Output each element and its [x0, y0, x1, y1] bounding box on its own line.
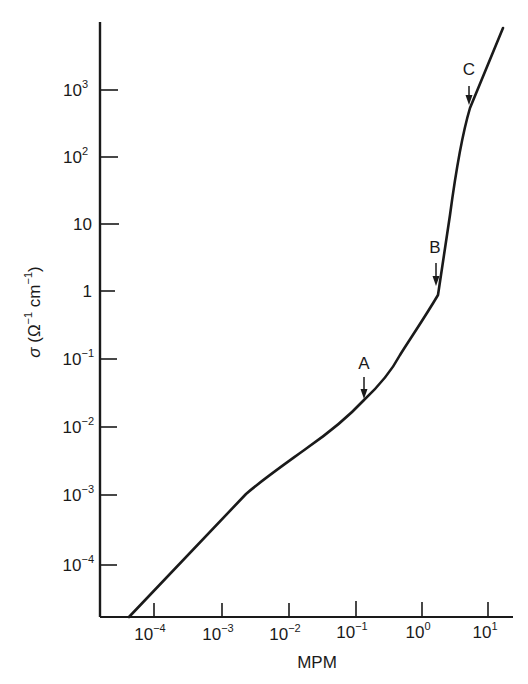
annotation-a-label: A: [358, 354, 370, 373]
x-axis-title: MPM: [297, 653, 337, 672]
chart: 103 102 10 1 10−1 10−2 10−3 10−4 10−4 10…: [0, 0, 528, 684]
y-ticks: [100, 90, 119, 565]
y-tick-label: 10−4: [63, 553, 94, 575]
y-tick-label: 10−1: [63, 347, 94, 369]
x-tick-label: 10−1: [336, 620, 367, 642]
x-tick-label: 101: [472, 620, 497, 642]
annotation-a: A: [358, 354, 370, 399]
y-tick-label: 1: [83, 282, 92, 301]
annotation-c-label: C: [463, 60, 475, 79]
annotation-b: B: [429, 238, 440, 286]
y-tick-label: 10−2: [63, 415, 94, 437]
annotation-b-label: B: [429, 238, 440, 257]
y-tick-label: 10: [73, 215, 92, 234]
y-tick-labels: 103 102 10 1 10−1 10−2 10−3 10−4: [63, 78, 94, 575]
x-tick-label: 10−3: [202, 622, 233, 644]
x-tick-labels: 10−4 10−3 10−2 10−1 100 101: [134, 620, 497, 644]
x-tick-label: 10−2: [269, 622, 300, 644]
y-tick-label: 103: [63, 78, 88, 100]
y-axis-title: σ (Ω−1 cm−1): [22, 266, 44, 358]
x-tick-label: 10−4: [134, 622, 165, 644]
conductivity-curve: [129, 28, 503, 617]
y-tick-label: 102: [63, 145, 88, 167]
x-ticks: [154, 601, 488, 617]
x-tick-label: 100: [405, 620, 430, 642]
y-tick-label: 10−3: [63, 483, 94, 505]
